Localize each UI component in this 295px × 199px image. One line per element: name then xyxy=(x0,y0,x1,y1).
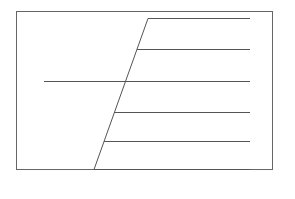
slanted-edge xyxy=(94,19,148,170)
line-diagram xyxy=(0,0,295,199)
outer-frame xyxy=(17,12,273,170)
horizontal-rungs xyxy=(94,19,250,170)
